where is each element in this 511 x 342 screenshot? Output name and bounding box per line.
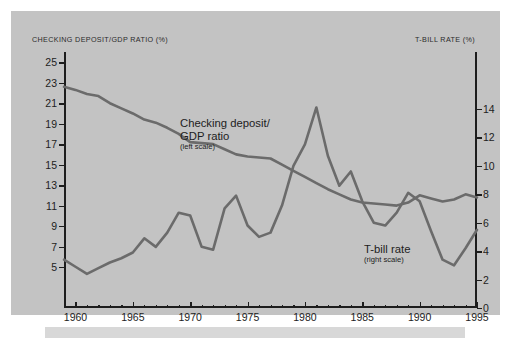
right-tick-label: 12	[483, 131, 495, 143]
x-tick-label: 1975	[236, 311, 259, 323]
series-line-checking-deposit	[64, 87, 477, 206]
right-tick	[477, 194, 482, 195]
left-tick-label: 7	[51, 241, 64, 253]
x-tick-label: 1980	[293, 311, 316, 323]
annotation-tbill: T-bill rate (right scale)	[364, 243, 410, 265]
left-tick-label: 15	[45, 159, 64, 171]
right-tick	[477, 280, 482, 281]
right-tick	[477, 109, 482, 110]
left-axis-title: CHECKING DEPOSIT/GDP RATIO (%)	[32, 35, 168, 44]
right-tick	[477, 166, 482, 167]
right-tick	[477, 137, 482, 138]
right-tick-label: 4	[483, 245, 489, 257]
left-tick-label: 13	[45, 179, 64, 191]
x-tick-label: 1965	[121, 311, 144, 323]
left-tick-label: 19	[45, 118, 64, 130]
caption-bar	[45, 327, 465, 338]
x-tick-major	[477, 302, 478, 308]
x-tick-label: 1990	[408, 311, 431, 323]
annotation-checking-line1: Checking deposit/	[180, 117, 270, 130]
x-tick-label: 1960	[64, 311, 87, 323]
left-tick-label: 5	[51, 261, 64, 273]
left-tick-label: 9	[51, 220, 64, 232]
x-tick-label: 1995	[465, 311, 488, 323]
annotation-tbill-scale: (right scale)	[364, 256, 410, 265]
right-tick-label: 8	[483, 188, 489, 200]
left-tick-label: 17	[45, 138, 64, 150]
series-layer	[64, 52, 477, 308]
right-tick-label: 6	[483, 217, 489, 229]
right-tick-label: 2	[483, 274, 489, 286]
right-tick	[477, 223, 482, 224]
left-tick-label: 23	[45, 77, 64, 89]
right-tick	[477, 308, 482, 309]
annotation-checking-deposit: Checking deposit/ GDP ratio (left scale)	[180, 117, 270, 152]
x-tick-label: 1970	[179, 311, 202, 323]
series-line-tbill-rate	[64, 107, 477, 273]
plot-area: 5791113151719212325 02468101214 19601965…	[64, 52, 477, 308]
right-axis-title: T-BILL RATE (%)	[415, 35, 475, 44]
x-tick-label: 1985	[351, 311, 374, 323]
right-tick	[477, 251, 482, 252]
chart-panel: CHECKING DEPOSIT/GDP RATIO (%) T-BILL RA…	[11, 11, 500, 315]
chart-figure: CHECKING DEPOSIT/GDP RATIO (%) T-BILL RA…	[0, 0, 511, 342]
left-tick-label: 25	[45, 56, 64, 68]
right-tick-label: 10	[483, 160, 495, 172]
annotation-checking-scale: (left scale)	[180, 143, 270, 152]
left-tick-label: 21	[45, 97, 64, 109]
right-tick-label: 14	[483, 103, 495, 115]
left-tick-label: 11	[46, 200, 64, 212]
